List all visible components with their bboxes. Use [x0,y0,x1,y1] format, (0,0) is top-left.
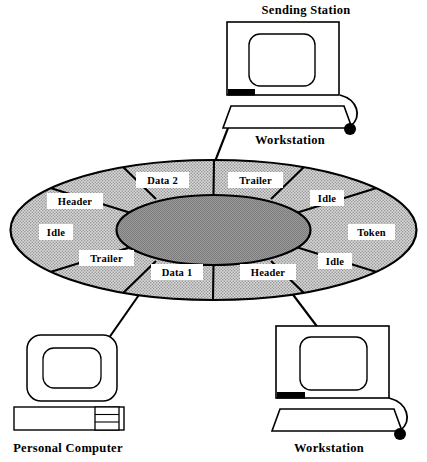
segment-label-header-bottom: Header [240,264,296,280]
segment-text-trailer-top: Trailer [239,175,272,186]
segment-text-idle-lower-right: Idle [326,256,344,267]
segment-label-idle-upper-right: Idle [310,190,344,206]
segment-label-trailer-left: Trailer [79,250,134,266]
workstation-bottom-mouse [394,428,406,440]
sending-station-device-label: Workstation [255,133,325,147]
sending-station-mouse [344,123,356,135]
node-workstation-bottom[interactable]: Workstation [272,326,407,455]
segment-label-idle-left: Idle [39,224,73,240]
sending-station-screen [249,34,315,86]
segment-text-idle-upper-right: Idle [318,193,336,204]
segment-text-header-top: Header [58,196,93,207]
segment-label-data-2: Data 2 [136,172,189,188]
personal-computer-screen [43,348,101,388]
personal-computer-label: Personal Computer [13,441,123,455]
workstation-bottom-screen [300,337,367,390]
connector-sending-station [214,128,228,164]
segment-text-idle-left: Idle [47,227,65,238]
workstation-bottom-keyboard [272,409,402,431]
segment-text-token: Token [357,227,386,238]
segment-text-trailer-left: Trailer [90,253,123,264]
token-ring-diagram: Data 2 Trailer Idle Token Idle Header [0,0,427,462]
node-sending-station[interactable]: Sending Station Workstation [223,3,357,147]
segment-text-header-bottom: Header [251,267,286,278]
spoke-6 [213,265,214,300]
workstation-bottom-label: Workstation [294,441,364,455]
segment-text-data-1: Data 1 [162,267,193,278]
segment-label-token: Token [348,224,395,240]
node-personal-computer[interactable]: Personal Computer [13,335,124,455]
personal-computer-drive-bay [95,407,119,430]
sending-station-keyboard [223,106,352,128]
segment-label-header-top: Header [47,193,103,209]
segment-label-data-1: Data 1 [151,264,203,280]
spoke-1 [214,160,215,195]
sending-station-title: Sending Station [262,3,351,17]
workstation-bottom-indicator-bar [277,392,305,399]
segment-label-idle-lower-right: Idle [318,253,352,269]
ring-hub-ellipse [117,195,311,265]
segment-label-trailer-top: Trailer [228,172,283,188]
segment-text-data-2: Data 2 [147,175,178,186]
sending-station-indicator-bar [228,89,255,96]
diagram-canvas: Data 2 Trailer Idle Token Idle Header [0,0,427,462]
